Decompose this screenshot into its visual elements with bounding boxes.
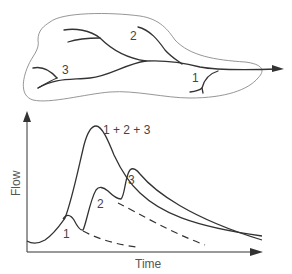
peak-label-2: 2 bbox=[97, 197, 104, 211]
y-axis-arrow-icon bbox=[23, 111, 31, 122]
subcatchment-label-1: 1 bbox=[192, 71, 199, 85]
peak-label-3: 3 bbox=[128, 173, 135, 187]
hydrograph-chart: 1 + 2 + 3 3 2 1 Time Flow bbox=[9, 111, 263, 271]
x-axis-arrow-icon bbox=[250, 248, 263, 256]
hydrograph-diagram: 3 2 1 1 + 2 + 3 3 2 1 Time Flow bbox=[0, 0, 292, 274]
combined-label: 1 + 2 + 3 bbox=[103, 123, 151, 137]
recession-dashed-1 bbox=[83, 231, 136, 247]
staggered-hydrograph-curve bbox=[63, 169, 262, 240]
combined-hydrograph-curve bbox=[27, 126, 262, 243]
catchment-boundary bbox=[23, 14, 262, 101]
x-axis-label: Time bbox=[135, 257, 162, 271]
peak-label-1: 1 bbox=[63, 227, 70, 241]
subcatchment-label-3: 3 bbox=[62, 63, 69, 77]
y-axis-label: Flow bbox=[9, 170, 23, 196]
catchment-map: 3 2 1 bbox=[23, 14, 284, 101]
subcatchment-label-2: 2 bbox=[130, 29, 137, 43]
outlet-arrow-icon bbox=[272, 65, 284, 72]
